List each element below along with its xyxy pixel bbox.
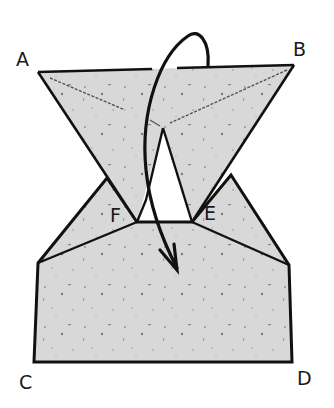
label-f: F (110, 204, 121, 226)
label-d: D (297, 367, 312, 389)
label-a: A (16, 48, 29, 70)
origami-diagram: A B C D E F (0, 0, 334, 408)
label-b: B (293, 38, 306, 60)
lower-body-paper (34, 175, 292, 362)
label-e: E (204, 202, 216, 224)
label-c: C (19, 371, 32, 393)
